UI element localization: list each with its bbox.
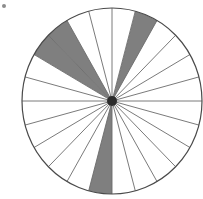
- sector-circle-diagram: [0, 0, 203, 199]
- center-hub: [107, 96, 117, 106]
- figure-root: [0, 0, 203, 199]
